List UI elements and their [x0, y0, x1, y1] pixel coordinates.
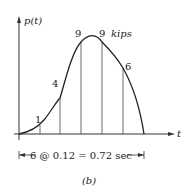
caption: (b) — [82, 175, 96, 186]
value-label-4: 9 — [99, 28, 105, 39]
y-axis-arrow-icon — [17, 16, 21, 23]
load-diagram: 1 4 9 9 6 kips p(t) t 6 @ 0.12 = 0.72 se… — [0, 0, 187, 192]
dimension-arrow-left-icon — [19, 153, 25, 157]
units-label: kips — [111, 28, 132, 39]
value-label-2: 4 — [52, 78, 58, 89]
x-axis-arrow-icon — [168, 132, 175, 136]
dimension-arrow-right-icon — [138, 153, 144, 157]
dimension-text: 6 @ 0.12 = 0.72 sec — [30, 150, 132, 161]
value-label-1: 1 — [35, 114, 41, 125]
value-label-5: 6 — [125, 61, 131, 72]
value-label-3: 9 — [75, 28, 81, 39]
x-axis-label: t — [177, 128, 182, 139]
y-axis-label: p(t) — [24, 15, 42, 26]
